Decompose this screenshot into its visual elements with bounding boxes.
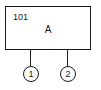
- connector-line-1: [30, 50, 31, 66]
- port-1-number: 1: [28, 70, 33, 79]
- block-label: A: [6, 25, 90, 35]
- port-1-circle: 1: [23, 66, 39, 82]
- block-id: 101: [13, 13, 28, 22]
- port-2-number: 2: [65, 70, 70, 79]
- block-a: 101 A: [5, 6, 91, 50]
- connector-line-2: [67, 50, 68, 66]
- port-2-circle: 2: [60, 66, 76, 82]
